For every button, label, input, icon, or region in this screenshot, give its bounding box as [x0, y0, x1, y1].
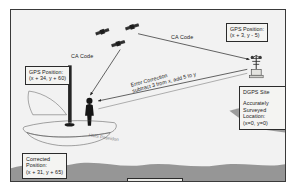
corrected-position-callout: Corrected Position: (x + 31, y + 65): [22, 153, 67, 179]
underwater-rocks-label: Underwater Rocks: [127, 178, 183, 182]
gps-position-tower-callout: GPS Position: (x + 3, y - 5): [226, 23, 268, 42]
gps-position-boat-callout: GPS Position: (x + 34, y + 60): [25, 66, 70, 85]
diagram-frame: HMS Poseidon: [10, 9, 286, 182]
corrected-position-line3: (x + 31, y + 65): [26, 169, 63, 175]
ca-code-left-label: CA Code: [71, 53, 93, 59]
gps-position-tower-line2: (x + 3, y - 5): [230, 32, 264, 38]
dgps-site-line5: (x=0, y=0): [243, 120, 286, 126]
dgps-diagram: HMS Poseidon: [0, 0, 296, 191]
gps-position-boat-line2: (x + 34, y + 60): [29, 75, 66, 81]
dgps-site-callout: DGPS Site Accurately Surveyed Location: …: [239, 86, 286, 130]
ca-code-right-label: CA Code: [171, 34, 193, 40]
